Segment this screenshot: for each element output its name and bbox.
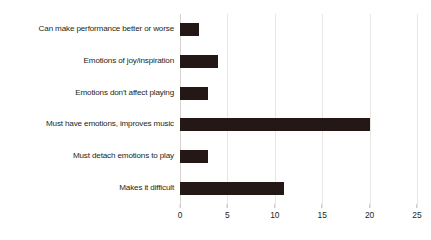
- tick-label: 15: [318, 210, 327, 220]
- category-label: Makes it difficult: [119, 184, 174, 193]
- category-label-row: Must detach emotions to play: [0, 141, 178, 173]
- gridline: [417, 14, 418, 204]
- tick-label: 25: [412, 210, 421, 220]
- category-label: Can make performance better or worse: [39, 25, 174, 34]
- bar: [180, 182, 284, 195]
- bar-row: [180, 141, 417, 173]
- value-axis: 0510152025: [180, 204, 417, 228]
- x-axis-tick: 0: [178, 204, 183, 220]
- bar-chart: Can make performance better or worse Emo…: [0, 0, 431, 240]
- bar-row: [180, 172, 417, 204]
- tick-mark: [369, 204, 370, 208]
- category-label-row: Makes it difficult: [0, 172, 178, 204]
- x-axis-tick: 10: [270, 204, 279, 220]
- bar: [180, 118, 370, 131]
- tick-label: 0: [178, 210, 183, 220]
- tick-label: 5: [225, 210, 230, 220]
- bars-layer: [180, 14, 417, 204]
- category-label-row: Emotions of joy/inspiration: [0, 46, 178, 78]
- category-label: Emotions of joy/inspiration: [84, 57, 174, 66]
- category-label: Must have emotions, improves music: [46, 120, 174, 129]
- category-label: Must detach emotions to play: [73, 152, 174, 161]
- tick-label: 20: [365, 210, 374, 220]
- category-axis: Can make performance better or worse Emo…: [0, 14, 178, 204]
- x-axis-tick: 20: [365, 204, 374, 220]
- bar: [180, 23, 199, 36]
- bar-row: [180, 109, 417, 141]
- bar: [180, 87, 208, 100]
- bar-row: [180, 77, 417, 109]
- category-label-row: Can make performance better or worse: [0, 14, 178, 46]
- category-label-row: Must have emotions, improves music: [0, 109, 178, 141]
- bar-row: [180, 14, 417, 46]
- category-label-row: Emotions don't affect playing: [0, 77, 178, 109]
- x-axis-tick: 5: [225, 204, 230, 220]
- plot-area: [180, 14, 417, 204]
- tick-mark: [227, 204, 228, 208]
- bar-row: [180, 46, 417, 78]
- tick-mark: [416, 204, 417, 208]
- x-axis-tick: 25: [412, 204, 421, 220]
- bar: [180, 55, 218, 68]
- tick-mark: [322, 204, 323, 208]
- tick-label: 10: [270, 210, 279, 220]
- bar: [180, 150, 208, 163]
- category-label: Emotions don't affect playing: [75, 89, 174, 98]
- x-axis-tick: 15: [318, 204, 327, 220]
- tick-mark: [179, 204, 180, 208]
- tick-mark: [274, 204, 275, 208]
